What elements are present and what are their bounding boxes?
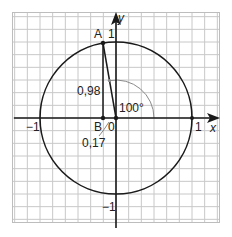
y-tick-neg-label: −1 [102, 200, 116, 214]
origin-label: 0 [108, 120, 115, 134]
unit-circle-diagram: y x A 1 B 0 1 −1 −1 0,98 0,17 100° [0, 0, 232, 237]
point-B-label: B [94, 120, 102, 134]
point-A-label: A [94, 27, 102, 41]
y-axis-label: y [117, 11, 125, 25]
x-axis-label: x [209, 121, 217, 135]
base-label: 0,17 [82, 136, 106, 150]
arc-end-marker [108, 79, 111, 82]
x-tick-pos-label: 1 [195, 120, 202, 134]
diagram-canvas: y x A 1 B 0 1 −1 −1 0,98 0,17 100° [0, 0, 232, 237]
point-x1 [190, 116, 194, 120]
y-tick-pos-label: 1 [108, 27, 115, 41]
point-A [101, 41, 105, 45]
height-label: 0,98 [77, 84, 101, 98]
x-tick-neg-label: −1 [26, 120, 40, 134]
angle-label: 100° [119, 101, 144, 115]
